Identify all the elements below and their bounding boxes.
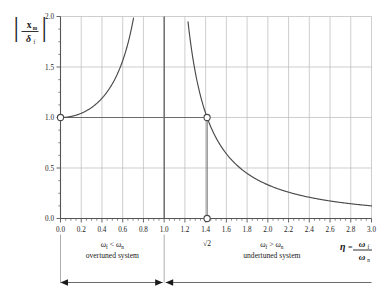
y-tick-label: 1.0: [45, 114, 54, 122]
chart-figure: 0.00.20.40.60.81.01.21.41.61.82.02.22.42…: [0, 0, 389, 301]
x-tick-label: 2.2: [284, 226, 293, 234]
overtuned-relation: ωf < ωn: [101, 240, 125, 250]
y-label-denominator-subscript: f: [34, 39, 36, 45]
x-tick-label: 2.6: [326, 226, 335, 234]
x-tick-label: 0.6: [118, 226, 127, 234]
x-tick-label: 1.0: [160, 226, 169, 234]
data-point-marker: [204, 215, 210, 221]
y-tick-label: 0.5: [45, 165, 54, 173]
y-label-left-bar: |: [14, 12, 19, 42]
x-tick-label: 1.8: [243, 226, 252, 234]
x-tick-label: 0.8: [139, 226, 148, 234]
y-label-right-bar: |: [42, 12, 47, 42]
x-tick-label: 3.0: [367, 226, 376, 234]
overtuned-caption: overtuned system: [86, 251, 139, 260]
x-tick-label: 0.4: [97, 226, 106, 234]
x-label-numerator: ω: [359, 239, 366, 249]
equals-sign: =: [348, 243, 353, 252]
eta-symbol: η: [340, 241, 346, 252]
sqrt2-label: √2: [203, 239, 211, 248]
data-point-marker: [57, 114, 63, 120]
y-tick-label: 1.5: [45, 64, 54, 72]
y-label-numerator: x: [27, 20, 32, 30]
y-label-denominator: δ: [26, 33, 31, 44]
data-point-marker: [204, 114, 210, 120]
x-tick-label: 2.0: [263, 226, 272, 234]
chart-background: [0, 0, 389, 301]
undertuned-caption: undertuned system: [243, 251, 300, 260]
undertuned-relation: ωf > ωn: [260, 240, 284, 250]
x-label-denominator-subscript: n: [367, 257, 370, 263]
x-tick-label: 2.8: [346, 226, 355, 234]
x-label-numerator-subscript: f: [368, 244, 370, 250]
x-tick-label: 2.4: [305, 226, 314, 234]
x-label-denominator: ω: [359, 252, 366, 262]
x-tick-label: 0.2: [77, 226, 86, 234]
x-tick-label: 1.4: [201, 226, 210, 234]
y-label-numerator-subscript: m: [33, 25, 38, 31]
x-tick-label: 0.0: [56, 226, 65, 234]
y-tick-label: 0.0: [45, 215, 54, 223]
x-tick-label: 1.2: [180, 226, 189, 234]
x-tick-label: 1.6: [222, 226, 231, 234]
magnification-factor-chart: 0.00.20.40.60.81.01.21.41.61.82.02.22.42…: [0, 0, 389, 301]
